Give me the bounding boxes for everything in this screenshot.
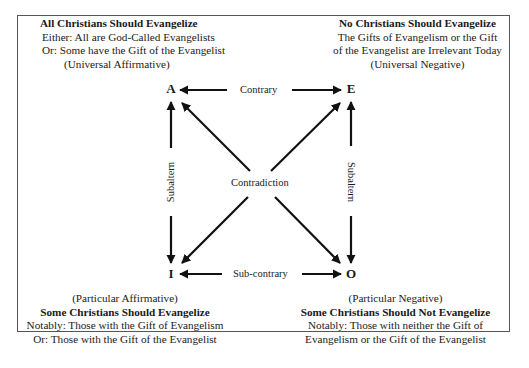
relation-label-left-subaltern: Subaltern xyxy=(165,160,177,204)
contradiction-arrow-to-o xyxy=(275,197,340,263)
relation-label-contrary: Contrary xyxy=(240,84,277,96)
corner-o-letter: O xyxy=(344,267,358,281)
contradiction-arrow-to-a xyxy=(182,103,250,171)
corner-e-letter: E xyxy=(344,82,358,96)
relation-label-subcontrary: Sub-contrary xyxy=(233,268,288,280)
contradiction-arrow-to-i xyxy=(182,197,248,263)
relation-label-contradiction: Contradiction xyxy=(231,177,289,189)
corner-a-letter: A xyxy=(164,82,178,96)
corner-i-letter: I xyxy=(164,267,178,281)
relation-label-right-subaltern: Subaltern xyxy=(345,160,357,204)
contradiction-arrow-to-e xyxy=(271,103,340,171)
